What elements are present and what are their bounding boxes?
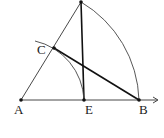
label-c: C — [37, 42, 46, 57]
label-b: B — [139, 102, 148, 117]
point-c — [52, 46, 56, 50]
large-arc — [81, 2, 139, 100]
point-top — [79, 0, 83, 4]
label-e: E — [85, 102, 93, 117]
geometry-diagram: A E B C — [0, 0, 164, 138]
segment-c-b — [54, 48, 139, 100]
segment-a-top — [21, 2, 81, 100]
label-a: A — [14, 102, 24, 117]
